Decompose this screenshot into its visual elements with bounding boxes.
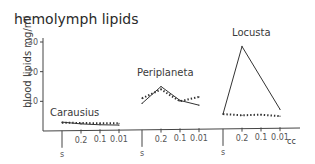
x-tick-label: 0.2 bbox=[155, 135, 168, 144]
data-point bbox=[61, 122, 62, 123]
y-tick-label: 10 bbox=[28, 97, 38, 106]
x-tick-label: s bbox=[60, 150, 64, 159]
data-point bbox=[179, 101, 180, 102]
series-dotted-line bbox=[223, 114, 280, 116]
panel-locusta: Locustas0.20.10.01 bbox=[221, 27, 289, 157]
series-solid-line bbox=[223, 46, 280, 114]
x-tick-label: s bbox=[140, 149, 144, 158]
x-tick-label: 0.1 bbox=[174, 134, 187, 143]
x-tick-label: s bbox=[221, 148, 225, 157]
x-tick-label: 0.01 bbox=[110, 135, 128, 144]
data-point bbox=[141, 103, 142, 104]
data-point bbox=[198, 96, 199, 97]
data-point bbox=[80, 122, 81, 123]
y-axis-label: blood lipids mg/ml bbox=[22, 16, 33, 108]
series-solid-line bbox=[142, 87, 199, 106]
data-point bbox=[222, 113, 223, 114]
data-point bbox=[241, 46, 242, 47]
panel-carausius: Carausiuss0.20.10.01 bbox=[50, 107, 128, 159]
y-tick-label: 30 bbox=[28, 38, 38, 47]
panel-periplaneta: Periplanetas0.20.10.01 bbox=[137, 67, 208, 158]
x-tick-label: 0.1 bbox=[255, 133, 268, 142]
data-point bbox=[118, 123, 119, 124]
data-point bbox=[279, 116, 280, 117]
data-point bbox=[160, 86, 161, 87]
hemolymph-lipids-chart: hemolymph lipids blood lipids mg/ml 1020… bbox=[0, 0, 315, 164]
data-point bbox=[260, 114, 261, 115]
x-tick-label: 0.1 bbox=[94, 135, 107, 144]
x-tick-label: 0.01 bbox=[190, 134, 208, 143]
panel-label: Carausius bbox=[50, 107, 99, 118]
data-point bbox=[198, 105, 199, 106]
x-tick-label: 0.2 bbox=[236, 134, 249, 143]
data-point bbox=[279, 109, 280, 110]
data-point bbox=[99, 123, 100, 124]
data-point bbox=[241, 115, 242, 116]
data-point bbox=[118, 124, 119, 125]
panel-label: Periplaneta bbox=[137, 67, 194, 78]
data-point bbox=[141, 98, 142, 99]
panels: Carausiuss0.20.10.01Periplanetas0.20.10.… bbox=[50, 27, 289, 159]
data-point bbox=[99, 124, 100, 125]
x-unit-label: cc bbox=[287, 137, 296, 146]
data-point bbox=[160, 89, 161, 90]
y-tick-label: 20 bbox=[28, 68, 38, 77]
x-tick-label: 0.2 bbox=[75, 136, 88, 145]
panel-label: Locusta bbox=[232, 27, 271, 38]
